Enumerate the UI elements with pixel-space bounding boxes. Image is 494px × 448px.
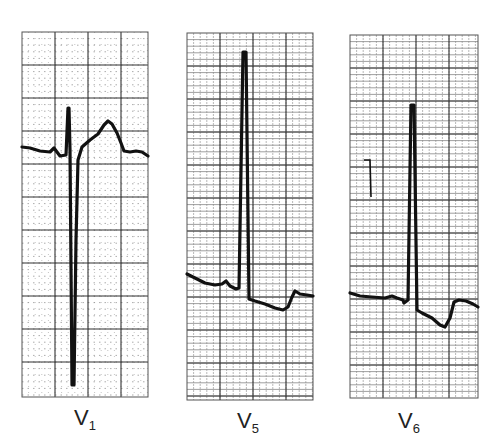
ecg-panel-v6 (350, 35, 478, 398)
major-grid (350, 35, 478, 398)
ecg-trace (22, 108, 148, 385)
ecg-panel-v1 (22, 32, 148, 397)
panel-border (350, 35, 478, 398)
minor-grid (350, 35, 478, 398)
major-grid (187, 33, 313, 400)
lead-label-v5: V5 (237, 408, 259, 436)
major-grid (22, 32, 148, 397)
minor-grid (187, 33, 313, 400)
lead-label-v1: V1 (74, 405, 96, 433)
lead-label-v6: V6 (398, 408, 420, 436)
minor-grid (22, 32, 148, 397)
ecg-panel-v5 (187, 33, 313, 400)
ecg-trace (350, 105, 478, 327)
panel-border (187, 33, 313, 400)
ecg-trace (187, 52, 313, 310)
panel-border (22, 32, 148, 397)
ecg-figure (0, 0, 494, 448)
